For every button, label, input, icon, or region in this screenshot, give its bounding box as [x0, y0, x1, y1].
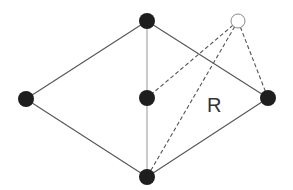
node-top	[139, 13, 155, 29]
dashed-edge-new-right	[238, 21, 268, 98]
node-bottom	[139, 169, 155, 185]
graph-diagram: R	[0, 0, 293, 190]
region-label: R	[207, 94, 221, 116]
edge-left-bottom	[26, 99, 147, 177]
node-left	[18, 91, 34, 107]
node-right	[260, 90, 276, 106]
dashed-edge-new-bottom	[147, 21, 238, 177]
dashed-edge-new-center	[147, 21, 238, 98]
edge-top-left	[26, 21, 147, 99]
edge-top-right	[147, 21, 268, 98]
node-new-hollow	[231, 14, 245, 28]
node-center	[139, 90, 155, 106]
